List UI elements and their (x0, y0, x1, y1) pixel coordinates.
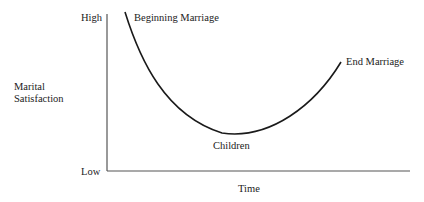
y-tick-high: High (81, 12, 102, 24)
annotation-children: Children (213, 140, 250, 152)
y-axis-label-line1: Marital (14, 81, 45, 93)
satisfaction-curve (125, 12, 341, 134)
annotation-beginning-marriage: Beginning Marriage (134, 12, 219, 24)
x-axis-label: Time (238, 183, 260, 195)
annotation-end-marriage: End Marriage (346, 56, 404, 68)
y-axis-label-line2: Satisfaction (14, 93, 64, 105)
y-tick-low: Low (81, 166, 100, 178)
